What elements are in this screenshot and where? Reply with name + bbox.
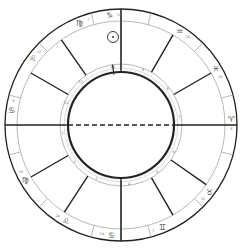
sun-icon-dot <box>112 36 114 38</box>
degree-tick <box>89 79 90 81</box>
degree-tick <box>97 174 98 176</box>
sign-glyph-9: ♊ <box>159 223 166 232</box>
degree-tick <box>70 101 72 102</box>
degree-tick <box>165 93 167 94</box>
degree-tick <box>170 101 172 102</box>
sign-glyph-5: ♒ <box>176 27 183 36</box>
sign-glyph-1: ♋ <box>8 106 15 115</box>
planet-glyphs <box>108 32 119 43</box>
house-number-9: 9 <box>142 68 144 72</box>
sign-degree-3: 7 <box>88 18 90 22</box>
degree-tick <box>156 166 157 168</box>
degree-tick <box>156 82 157 84</box>
degree-tick <box>139 72 140 74</box>
degree-tick <box>152 79 153 81</box>
degree-tick <box>73 152 75 153</box>
degree-tick <box>81 85 82 86</box>
degree-tick <box>67 139 69 140</box>
degree-tick <box>159 85 160 86</box>
center-dot <box>120 124 122 126</box>
sign-glyph-8: ♉ <box>206 188 213 197</box>
sign-boundary <box>221 152 233 155</box>
house-cusp-3 <box>64 176 87 212</box>
degree-tick <box>172 106 174 107</box>
sign-degree-12: 26 <box>19 170 23 174</box>
degree-tick <box>85 166 86 168</box>
house-number-6: 6 <box>172 150 174 154</box>
degree-tick <box>173 139 175 140</box>
house-number-1: 1 <box>61 131 63 135</box>
house-number-2: 2 <box>73 160 75 164</box>
sign-glyph-10: ♋ <box>108 231 115 240</box>
sign-degree-2: 12 <box>37 50 41 54</box>
sign-glyph-4: ♑ <box>106 11 113 20</box>
sign-degree-5: 24 <box>185 35 190 39</box>
astrology-chart-wheel: ♋8♌12♍7♑19♒24♓26♈8♉12♊7♋19♌24♍26 1234567… <box>0 0 241 250</box>
house-cusp-11 <box>61 40 86 75</box>
house-number-12: 12 <box>64 101 68 105</box>
sign-degree-9: 7 <box>152 229 154 233</box>
degree-tick <box>89 169 90 171</box>
degree-tick <box>152 169 153 171</box>
sign-boundary <box>9 152 21 155</box>
house-number-5: 5 <box>156 170 158 174</box>
degree-tick <box>165 156 167 157</box>
degree-tick <box>170 148 172 149</box>
sign-boundary <box>39 199 47 207</box>
house-cusp-6 <box>171 160 206 185</box>
house-number-8: 8 <box>166 87 168 91</box>
sign-degree-7: 8 <box>230 127 232 131</box>
sign-glyph-11: ♌ <box>62 217 69 226</box>
degree-tick <box>75 93 77 94</box>
degree-tick <box>73 97 75 98</box>
degree-tick <box>173 111 175 112</box>
sign-boundary <box>91 225 94 237</box>
sign-boundary <box>148 13 151 25</box>
house-cusp-2 <box>31 156 68 178</box>
sign-glyph-12: ♍ <box>22 176 29 185</box>
degree-tick <box>148 77 149 79</box>
sign-boundary <box>9 95 21 98</box>
sign-glyph-2: ♌ <box>29 54 36 63</box>
degree-tick <box>135 177 136 179</box>
sign-glyph-3: ♍ <box>76 19 83 28</box>
house-number-7: 7 <box>178 115 180 119</box>
sign-boundary <box>148 225 151 237</box>
degree-tick <box>102 176 103 178</box>
degree-tick <box>144 174 145 176</box>
degree-tick <box>139 176 140 178</box>
degree-tick <box>135 71 136 73</box>
sign-degree-1: 8 <box>12 99 14 103</box>
sign-glyph-6: ♓ <box>212 64 219 73</box>
degree-tick <box>168 152 170 153</box>
sign-glyph-7: ♈ <box>228 115 235 124</box>
degree-tick <box>93 77 94 79</box>
house-number-3: 3 <box>95 177 97 181</box>
asc-dsc-axis <box>68 124 174 126</box>
degree-tick <box>168 97 170 98</box>
sign-degree-11: 24 <box>55 214 60 218</box>
house-cusp-9 <box>152 35 174 72</box>
degree-tick <box>81 163 82 164</box>
degree-tick <box>70 148 72 149</box>
degree-tick <box>107 71 108 73</box>
degree-tick <box>107 177 108 179</box>
degree-tick <box>78 160 80 161</box>
house-number-11: 11 <box>79 80 83 84</box>
degree-tick <box>172 143 174 144</box>
degree-tick <box>102 72 103 74</box>
sign-degree-4: 19 <box>117 13 121 17</box>
degree-tick <box>93 172 94 174</box>
degree-tick <box>144 74 145 76</box>
sign-boundary <box>195 43 203 51</box>
sign-degree-6: 26 <box>218 75 222 79</box>
degree-tick <box>68 106 70 107</box>
degree-tick <box>162 160 164 161</box>
degree-tick <box>75 156 77 157</box>
sign-boundary <box>221 95 233 98</box>
house-cusp-5 <box>152 178 174 215</box>
house-cusp-12 <box>31 73 68 95</box>
degree-tick <box>162 89 164 90</box>
sign-degree-10: 19 <box>100 232 104 236</box>
degree-tick <box>97 74 98 76</box>
